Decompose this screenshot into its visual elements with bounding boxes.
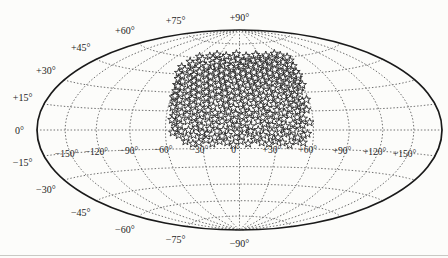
latitude-label: −15° — [13, 157, 33, 168]
star-marker — [219, 126, 227, 134]
longitude-label: −150° — [55, 149, 79, 159]
latitude-label: +45° — [71, 42, 91, 53]
longitude-label: −120° — [85, 147, 109, 157]
latitude-label: +30° — [36, 65, 56, 76]
longitude-label: −60° — [154, 145, 173, 155]
latitude-label: +60° — [115, 25, 135, 36]
sky-map: −150°−120°−90°−60°−30°0°+30°+60°+90°+120… — [0, 0, 448, 258]
longitude-label: +90° — [333, 146, 352, 156]
longitude-label: −90° — [120, 146, 139, 156]
star-marker — [285, 141, 293, 149]
page-bottom-rule — [0, 255, 448, 256]
longitude-label: +150° — [393, 149, 417, 159]
latitude-label: −30° — [36, 184, 56, 195]
latitude-label: −45° — [71, 207, 91, 218]
latitude-label: +75° — [166, 15, 186, 26]
star-marker — [306, 118, 314, 126]
latitude-label: −60° — [115, 224, 135, 235]
star-marker — [254, 126, 262, 134]
longitude-label: +60° — [298, 145, 317, 155]
longitude-label: +30° — [263, 145, 282, 155]
latitude-label: 0° — [15, 125, 24, 136]
star-markers — [168, 49, 314, 148]
longitude-label: +120° — [363, 147, 387, 157]
figure-page: −150°−120°−90°−60°−30°0°+30°+60°+90°+120… — [0, 0, 448, 258]
latitude-label: −75° — [166, 234, 186, 245]
latitude-label: +15° — [13, 92, 33, 103]
star-marker — [184, 126, 192, 134]
latitude-label: −90° — [230, 238, 250, 249]
sky-map-figure: −150°−120°−90°−60°−30°0°+30°+60°+90°+120… — [0, 0, 448, 258]
latitude-label: +90° — [230, 12, 250, 23]
